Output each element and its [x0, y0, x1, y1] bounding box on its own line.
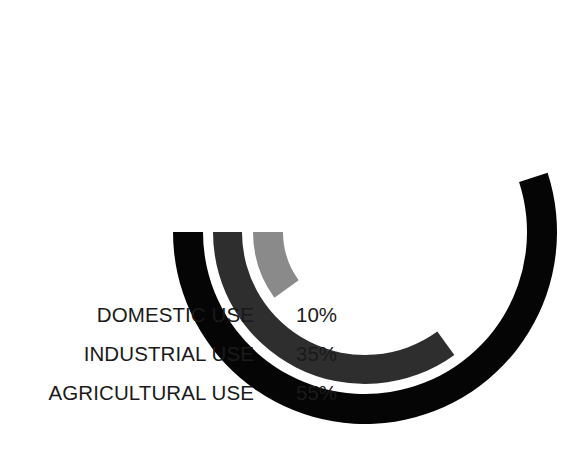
legend-label-domestic-use: DOMESTIC USE [0, 303, 254, 327]
legend-row-domestic-use[interactable]: DOMESTIC USE 10% [0, 303, 352, 342]
chart-legend: DOMESTIC USE 10% INDUSTRIAL USE 35% AGRI… [0, 303, 352, 420]
radial-bar-chart-figure: DOMESTIC USE 10% INDUSTRIAL USE 35% AGRI… [0, 0, 580, 458]
arc-domestic-use[interactable] [253, 232, 299, 298]
legend-row-agricultural-use[interactable]: AGRICULTURAL USE 55% [0, 381, 352, 420]
legend-label-agricultural-use: AGRICULTURAL USE [0, 381, 254, 405]
legend-label-industrial-use: INDUSTRIAL USE [0, 342, 254, 366]
legend-value-domestic-use: 10% [254, 303, 352, 327]
legend-row-industrial-use[interactable]: INDUSTRIAL USE 35% [0, 342, 352, 381]
legend-value-industrial-use: 35% [254, 342, 352, 366]
legend-value-agricultural-use: 55% [254, 381, 352, 405]
